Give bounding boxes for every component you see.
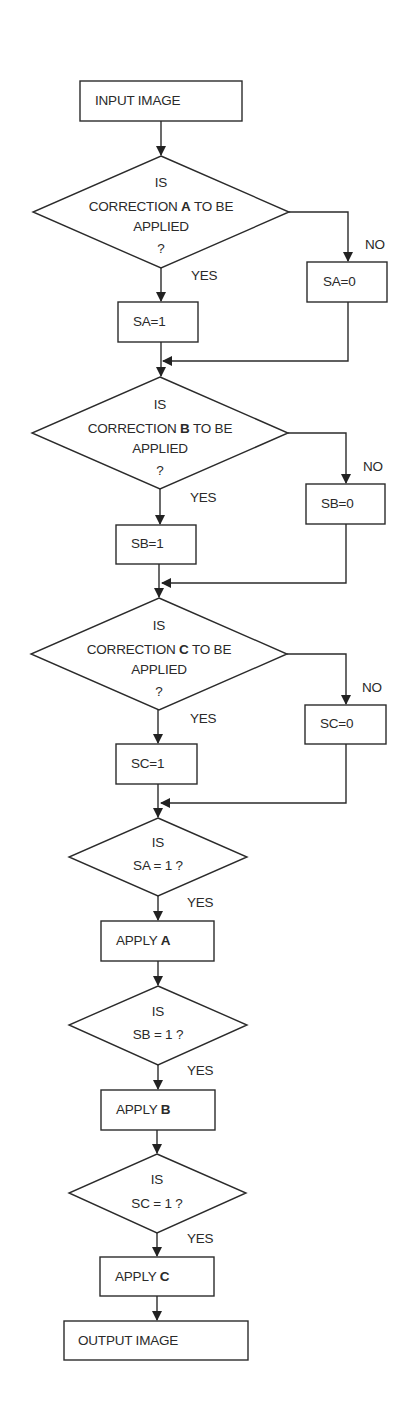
decision-b-line2: CORRECTION B TO BE bbox=[60, 420, 260, 438]
arrow-decision-a-no bbox=[289, 212, 348, 261]
decision-a-line2: CORRECTION A TO BE bbox=[61, 198, 261, 216]
decision-b-yes-label: YES bbox=[190, 490, 216, 505]
decision-b-no-label: NO bbox=[363, 459, 383, 474]
sa-0-label: SA=0 bbox=[323, 273, 356, 291]
decision-a-no-label: NO bbox=[365, 237, 385, 252]
sa-1-label: SA=1 bbox=[133, 313, 166, 331]
check-sc-diamond bbox=[69, 1154, 246, 1233]
decision-c-yes-label: YES bbox=[190, 711, 216, 726]
apply-c-label: APPLY C bbox=[115, 1268, 169, 1286]
decision-c-line1: IS bbox=[59, 617, 259, 635]
sb-0-label: SB=0 bbox=[321, 495, 354, 513]
check-sc-line2: SC = 1 ? bbox=[77, 1195, 237, 1213]
check-sb-line1: IS bbox=[78, 1003, 238, 1021]
check-sa-line2: SA = 1 ? bbox=[78, 857, 238, 875]
decision-a-yes-label: YES bbox=[191, 268, 217, 283]
apply-b-label: APPLY B bbox=[116, 1101, 170, 1119]
decision-a-line1: IS bbox=[61, 174, 261, 192]
decision-c-line3: APPLIED bbox=[59, 661, 259, 679]
sc-1-label: SC=1 bbox=[131, 755, 164, 773]
decision-a-line4: ? bbox=[61, 240, 261, 258]
decision-c-no-label: NO bbox=[362, 680, 382, 695]
arrow-decision-c-no bbox=[287, 654, 346, 704]
decision-b-line3: APPLIED bbox=[60, 440, 260, 458]
decision-b-line4: ? bbox=[60, 462, 260, 480]
output-image-label: OUTPUT IMAGE bbox=[78, 1332, 178, 1350]
check-sc-yes-label: YES bbox=[187, 1231, 213, 1246]
decision-c-line4: ? bbox=[59, 683, 259, 701]
check-sb-yes-label: YES bbox=[187, 1063, 213, 1078]
sb-1-label: SB=1 bbox=[131, 535, 164, 553]
input-image-label: INPUT IMAGE bbox=[95, 92, 180, 110]
decision-a-line3: APPLIED bbox=[61, 218, 261, 236]
decision-c-line2: CORRECTION C TO BE bbox=[59, 641, 259, 659]
decision-b-line1: IS bbox=[60, 396, 260, 414]
check-sa-yes-label: YES bbox=[187, 895, 213, 910]
sc-0-label: SC=0 bbox=[320, 715, 353, 733]
check-sc-line1: IS bbox=[77, 1171, 237, 1189]
apply-a-label: APPLY A bbox=[116, 932, 170, 950]
check-sb-line2: SB = 1 ? bbox=[78, 1026, 238, 1044]
check-sa-line1: IS bbox=[78, 834, 238, 852]
arrow-decision-b-no bbox=[288, 433, 346, 483]
